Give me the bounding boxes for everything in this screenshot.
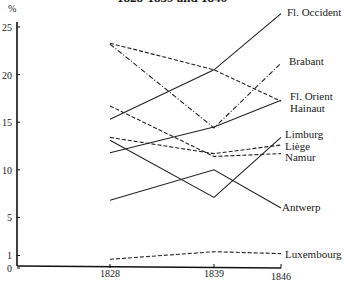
series-label: Antwerp <box>282 201 321 213</box>
series-label: Fl. Orient <box>290 90 333 102</box>
x-tick-label: 1846 <box>271 271 291 281</box>
series-label: Limburg <box>285 128 324 140</box>
series-line <box>110 252 281 260</box>
series-line <box>110 43 281 101</box>
y-tick-label: 20 <box>2 70 12 81</box>
series-label: Brabant <box>289 55 324 67</box>
series-label: Fl. Occident <box>287 6 341 18</box>
x-axis <box>17 266 281 268</box>
series-line <box>110 137 281 153</box>
y-tick-label: 25 <box>2 22 12 33</box>
y-tick-label: 0 <box>7 263 12 274</box>
series-line <box>110 14 281 120</box>
y-tick-label: 1 <box>7 250 12 261</box>
series-line <box>110 170 281 208</box>
x-tick-label: 1828 <box>100 268 120 279</box>
series-label: Namur <box>285 151 316 163</box>
series-label: Hainaut <box>290 102 325 114</box>
y-axis-label: % <box>8 3 16 14</box>
series-label: Luxembourg <box>285 248 342 260</box>
x-tick-label: 1839 <box>204 268 224 279</box>
series-line <box>110 44 281 128</box>
y-tick-label: 5 <box>7 212 12 223</box>
y-tick-label: 10 <box>2 165 12 176</box>
y-tick-label: 15 <box>2 117 12 128</box>
series-line <box>110 100 281 152</box>
line-chart: %01510152025182818391846Fl. OccidentBrab… <box>0 0 344 281</box>
